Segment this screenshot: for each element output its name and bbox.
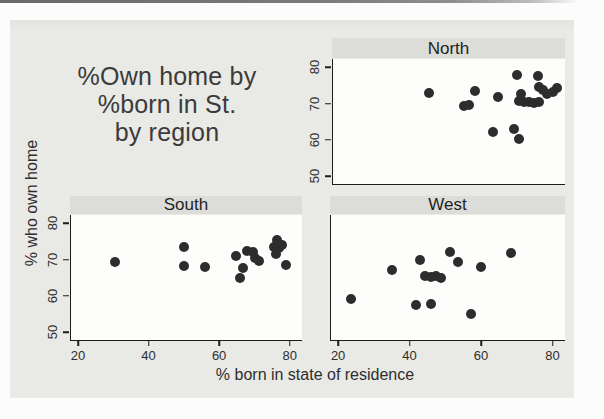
data-point — [277, 240, 287, 250]
data-point — [346, 294, 356, 304]
data-point — [281, 260, 291, 270]
x-tick-label: 60 — [474, 348, 488, 363]
data-point — [464, 100, 474, 110]
data-point — [110, 257, 120, 267]
data-point — [493, 92, 503, 102]
y-tick-mark — [63, 259, 69, 261]
y-axis-title: % who own home — [23, 140, 41, 266]
x-tick-label: 60 — [212, 348, 226, 363]
panel-west-plot: 20406080 — [330, 215, 565, 341]
x-tick-label: 80 — [282, 348, 296, 363]
y-tick-mark — [325, 103, 331, 105]
y-tick-label: 60 — [307, 133, 322, 147]
data-point — [387, 265, 397, 275]
y-tick-label: 70 — [307, 96, 322, 110]
page-scan-artifact — [0, 0, 578, 3]
data-point — [179, 242, 189, 252]
data-point — [466, 309, 476, 319]
data-point — [534, 97, 544, 107]
panel-north-plot: 80706050 — [332, 59, 565, 185]
figure-title: %Own home by %born in St. by region — [22, 62, 312, 146]
figure-title-line2: %born in St. — [22, 90, 312, 118]
y-tick-label: 60 — [45, 289, 60, 303]
data-point — [271, 249, 281, 259]
data-point — [436, 273, 446, 283]
data-point — [424, 88, 434, 98]
y-tick-mark — [325, 175, 331, 177]
data-point — [411, 300, 421, 310]
x-tick-mark — [337, 340, 339, 346]
y-tick-label: 50 — [307, 169, 322, 183]
y-tick-label: 50 — [45, 325, 60, 339]
y-tick-mark — [325, 139, 331, 141]
data-point — [514, 134, 524, 144]
x-tick-mark — [552, 340, 554, 346]
data-point — [509, 124, 519, 134]
data-point — [426, 299, 436, 309]
x-tick-mark — [409, 340, 411, 346]
x-tick-label: 40 — [402, 348, 416, 363]
figure-title-line1: %Own home by — [22, 62, 312, 90]
data-point — [512, 70, 522, 80]
data-point — [506, 248, 516, 258]
data-point — [488, 127, 498, 137]
x-axis-title: % born in state of residence — [216, 366, 414, 384]
data-point — [552, 83, 562, 93]
y-tick-label: 80 — [307, 60, 322, 74]
data-point — [200, 262, 210, 272]
x-tick-mark — [148, 340, 150, 346]
x-tick-label: 40 — [141, 348, 155, 363]
figure-title-line3: by region — [22, 118, 312, 146]
y-tick-label: 80 — [45, 216, 60, 230]
stata-scatter-figure: %Own home by %born in St. by region % wh… — [0, 0, 604, 419]
data-point — [476, 262, 486, 272]
x-tick-mark — [480, 340, 482, 346]
x-tick-mark — [218, 340, 220, 346]
panel-north-title: North — [332, 38, 565, 58]
y-tick-mark — [63, 331, 69, 333]
data-point — [254, 256, 264, 266]
y-tick-label: 70 — [45, 252, 60, 266]
data-point — [453, 257, 463, 267]
graph-region: %Own home by %born in St. by region % wh… — [10, 20, 574, 398]
data-point — [470, 86, 480, 96]
y-tick-mark — [325, 67, 331, 69]
data-point — [238, 263, 248, 273]
x-tick-label: 20 — [71, 348, 85, 363]
data-point — [533, 71, 543, 81]
x-tick-mark — [289, 340, 291, 346]
panel-south-plot: 8070605020406080 — [70, 215, 302, 341]
data-point — [231, 251, 241, 261]
data-point — [445, 247, 455, 257]
x-tick-label: 20 — [331, 348, 345, 363]
data-point — [179, 261, 189, 271]
y-tick-mark — [63, 223, 69, 225]
panel-west-title: West — [330, 196, 565, 214]
data-point — [415, 255, 425, 265]
y-tick-mark — [63, 295, 69, 297]
panel-south-title: South — [70, 196, 302, 214]
data-point — [235, 273, 245, 283]
x-tick-label: 80 — [545, 348, 559, 363]
x-tick-mark — [77, 340, 79, 346]
